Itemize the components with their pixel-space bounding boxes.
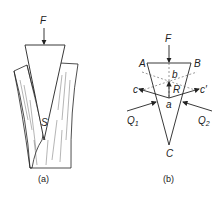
reaction-q2: [183, 102, 212, 111]
caption-b: (b): [163, 174, 174, 184]
label-f-a: F: [40, 15, 47, 26]
label-b-vertex: B: [194, 58, 201, 69]
dashed-line-2: [142, 72, 198, 91]
label-f-b: F: [165, 33, 172, 44]
reaction-q1: [127, 102, 156, 111]
figure-b: F A B C b R a c c′ Q1 Q2 (b): [127, 33, 212, 184]
wedge-diagram: F S (a) F A B C b R a c c′ Q1 Q2 (b): [0, 0, 214, 201]
label-r: R: [173, 84, 180, 95]
dashed-line-1: [140, 72, 197, 91]
label-point-a: a: [166, 99, 172, 110]
label-c-prime: c′: [200, 84, 208, 95]
label-q2: Q2: [198, 115, 210, 127]
label-point-b: b: [172, 69, 178, 80]
label-c-vertex: C: [166, 148, 174, 159]
label-c: c: [133, 84, 138, 95]
label-q1: Q1: [127, 115, 139, 127]
caption-a: (a): [38, 174, 49, 184]
label-s: S: [41, 117, 48, 128]
label-a-vertex: A: [138, 58, 146, 69]
figure-a: F S (a): [14, 15, 78, 184]
